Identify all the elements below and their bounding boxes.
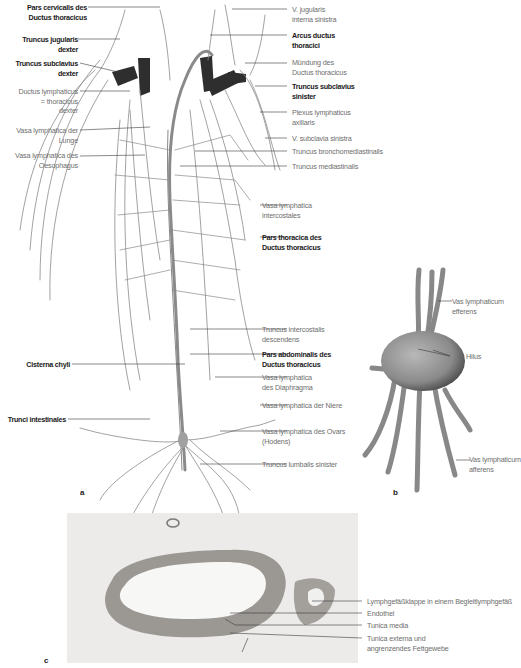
label-endothel: Endothel [367, 609, 394, 619]
label-lymphgefaessklappe: Lymphgefäßklappe in einem Begleitlymphge… [367, 597, 512, 607]
label-tunica-media: Tunica media [367, 621, 408, 631]
panel-letter-c: c [44, 656, 48, 665]
label-tunica-externa: Tunica externa und angrenzendes Fettgewe… [367, 634, 449, 653]
